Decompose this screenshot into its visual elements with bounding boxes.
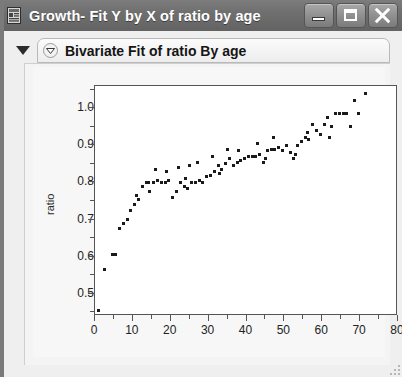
resize-grip[interactable]	[386, 361, 400, 375]
scatter-point	[251, 155, 254, 158]
scatter-point	[126, 218, 129, 221]
y-axis: 0.50.60.70.80.91.0	[53, 85, 94, 315]
scatter-point	[194, 181, 197, 184]
bivariate-fit-window: Growth- Fit Y by X of ratio by age	[0, 0, 402, 377]
scatter-point	[160, 181, 163, 184]
report-node-label: Bivariate Fit of ratio By age	[65, 43, 246, 59]
scatter-point	[224, 162, 227, 165]
scatter-point	[323, 123, 326, 126]
triangle-down-outline-icon[interactable]	[43, 43, 58, 58]
scatter-point	[218, 172, 221, 175]
scatter-point	[328, 136, 331, 139]
scatter-point	[114, 253, 117, 256]
close-button[interactable]	[368, 3, 398, 28]
x-tick-mark	[208, 315, 209, 321]
scatter-point	[135, 194, 138, 197]
scatter-point	[141, 185, 144, 188]
scatter-point	[306, 131, 309, 134]
scatter-point	[220, 168, 223, 171]
scatter-point	[152, 181, 155, 184]
scatter-point	[281, 149, 284, 152]
scatter-point	[198, 179, 201, 182]
scatter-point	[148, 190, 151, 193]
scatter-point	[137, 198, 140, 201]
x-tick-label: 0	[91, 323, 98, 337]
scatter-point	[184, 177, 187, 180]
scatter-point	[254, 155, 257, 158]
report-node-header[interactable]: Bivariate Fit of ratio By age	[37, 38, 390, 63]
x-tick-minor	[189, 315, 190, 319]
scatter-point	[122, 222, 125, 225]
scatter-point	[285, 144, 288, 147]
scatter-point	[217, 164, 220, 167]
x-tick-minor	[302, 315, 303, 319]
scatter-point	[232, 164, 235, 167]
scatter-point	[326, 116, 329, 119]
scatter-point	[266, 149, 269, 152]
scatter-point	[154, 168, 157, 171]
x-tick-mark	[170, 315, 171, 321]
scatter-point	[213, 170, 216, 173]
triangle-down-solid-icon[interactable]	[16, 46, 30, 55]
outline-header: Bivariate Fit of ratio By age	[10, 38, 390, 63]
scatter-point	[228, 157, 231, 160]
scatter-point	[164, 181, 167, 184]
scatter-point	[273, 148, 276, 151]
scatter-point	[256, 142, 259, 145]
scatter-point	[307, 138, 310, 141]
scatter-point	[243, 157, 246, 160]
scatter-point	[277, 146, 280, 149]
scatter-point	[311, 123, 314, 126]
x-tick-mark	[246, 315, 247, 321]
scatter-point	[167, 179, 170, 182]
scatter-point	[129, 209, 132, 212]
scatter-point	[338, 112, 341, 115]
scatter-point	[357, 112, 360, 115]
scatter-point	[118, 227, 121, 230]
x-tick-mark	[132, 315, 133, 321]
window-title: Growth- Fit Y by X of ratio by age	[29, 8, 304, 24]
scatter-point	[294, 153, 297, 156]
scatter-point	[188, 164, 191, 167]
scatter-point	[258, 153, 261, 156]
plot-frame	[94, 85, 397, 315]
scatter-point	[111, 253, 114, 256]
x-tick-label: 40	[239, 323, 252, 337]
report-document-icon	[7, 7, 23, 24]
plot-surface: ratio 0.50.60.70.80.91.0 010203040506070…	[33, 67, 385, 357]
maximize-button[interactable]	[336, 3, 366, 28]
x-tick-minor	[227, 315, 228, 319]
scatter-point	[175, 190, 178, 193]
scatter-point	[264, 157, 267, 160]
window-content: Bivariate Fit of ratio By age ratio 0.50…	[4, 31, 402, 377]
x-tick-minor	[113, 315, 114, 319]
scatter-point	[247, 155, 250, 158]
scatter-point	[201, 181, 204, 184]
scatter-point	[270, 148, 273, 151]
scatter-point	[272, 136, 275, 139]
scatter-point	[345, 112, 348, 115]
scatter-point	[103, 268, 106, 271]
x-tick-label: 70	[352, 323, 365, 337]
x-tick-label: 30	[201, 323, 214, 337]
scatter-point	[196, 161, 199, 164]
scatter-point	[319, 133, 322, 136]
scatter-point	[226, 148, 229, 151]
scatter-point	[300, 140, 303, 143]
scatter-point	[349, 125, 352, 128]
x-tick-minor	[151, 315, 152, 319]
x-tick-minor	[378, 315, 379, 319]
window-titlebar[interactable]: Growth- Fit Y by X of ratio by age	[4, 0, 402, 31]
scatter-point	[334, 112, 337, 115]
minimize-button[interactable]	[304, 3, 334, 28]
scatter-point	[237, 149, 240, 152]
scatter-point	[156, 179, 159, 182]
x-tick-mark	[321, 315, 322, 321]
scatter-point	[147, 181, 150, 184]
scatter-point	[239, 159, 242, 162]
scatter-point	[171, 196, 174, 199]
x-tick-minor	[340, 315, 341, 319]
scatter-point	[353, 99, 356, 102]
scatter-point	[330, 125, 333, 128]
minimize-icon	[312, 17, 325, 21]
